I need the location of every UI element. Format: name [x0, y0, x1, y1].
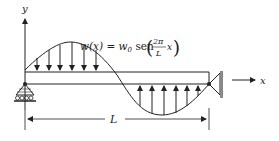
- svg-text:2π: 2π: [152, 37, 164, 46]
- svg-text:): ): [173, 37, 180, 58]
- beam: [25, 72, 209, 84]
- load-equation: w(x) = w0 sen ( 2π L x ): [80, 37, 180, 58]
- svg-text:L: L: [155, 49, 161, 58]
- load-curve: [25, 42, 209, 115]
- y-axis: y: [21, 3, 28, 110]
- svg-text:w(x) = w0 sen: w(x) = w0 sen: [80, 40, 154, 54]
- x-axis-label: x: [260, 75, 266, 86]
- x-axis: x: [232, 75, 266, 86]
- dimension-label: L: [109, 113, 117, 126]
- dimension-L: L: [25, 108, 209, 130]
- svg-text:x: x: [167, 42, 172, 52]
- beam-diagram: y: [0, 0, 279, 141]
- svg-text:(: (: [146, 37, 153, 58]
- y-axis-label: y: [21, 3, 28, 14]
- upward-load-arrows: [140, 86, 198, 115]
